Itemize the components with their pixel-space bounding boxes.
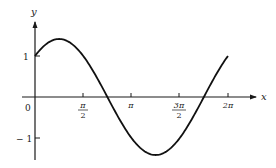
y-axis-label: y [30,6,37,17]
x-tick-label-two-pi: 2π [222,101,234,110]
x-tick-label-pi: π [127,101,134,110]
svg-text:π: π [79,101,86,110]
y-tick-label-1: 1 [23,52,29,62]
y-tick-label-neg1: − 1 [16,134,32,144]
svg-text:2: 2 [176,111,181,120]
origin-label: 0 [25,103,31,113]
function-plot: y x 0 1 − 1 π 2 π 3π 2 2π [0,0,276,168]
x-tick-label-three-pi-half: 3π 2 [172,101,186,120]
svg-text:2: 2 [80,111,85,120]
x-axis-label: x [261,91,267,102]
svg-text:3π: 3π [174,101,185,110]
x-tick-label-pi-half: π 2 [78,101,88,120]
